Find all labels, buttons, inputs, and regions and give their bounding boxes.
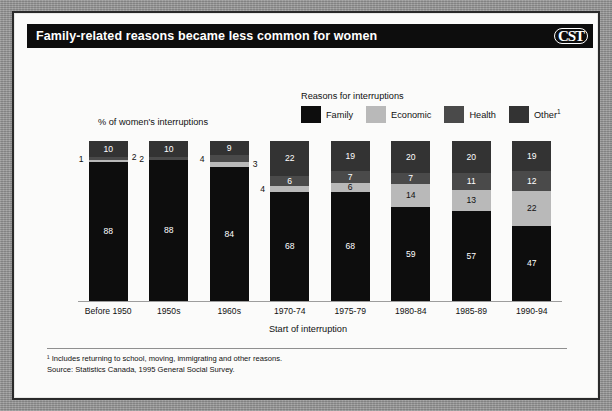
x-axis-label: Start of interruption (14, 324, 602, 334)
segment-callout-label: 2 (139, 155, 144, 164)
stacked-bar[interactable]: 686719 (331, 141, 370, 301)
bar-segment-family: 57 (452, 211, 491, 301)
segment-value-label: 68 (285, 242, 295, 251)
stacked-bar[interactable]: 57131120 (452, 141, 491, 301)
x-tick-label: 1950s (139, 306, 200, 316)
y-axis-label: % of women's interruptions (98, 117, 208, 127)
footnote-text: ¹ Includes returning to school, moving, … (47, 354, 282, 365)
bar-segment-other: 22 (270, 141, 309, 176)
segment-value-label: 10 (103, 145, 113, 154)
legend-label-family: Family (326, 110, 353, 120)
bar-segment-health: 11 (452, 173, 491, 190)
segment-value-label: 9 (227, 144, 232, 153)
bar-segment-other: 10 (149, 141, 188, 157)
bar-segment-family: 88 (149, 160, 188, 301)
stacked-bar[interactable]: 8810 (89, 141, 128, 301)
legend: FamilyEconomicHealthOther1 (301, 106, 574, 123)
bar-segment-other: 19 (331, 141, 370, 171)
source-text: Source: Statistics Canada, 1995 General … (47, 365, 282, 376)
legend-item-economic: Economic (366, 106, 431, 123)
chart-title-bar: Family-related reasons became less commo… (27, 24, 575, 48)
bar-segment-other: 9 (210, 141, 249, 155)
x-tick-label: 1970-74 (260, 306, 321, 316)
segment-callout-label: 2 (132, 153, 137, 162)
segment-value-label: 14 (406, 191, 416, 200)
legend-item-other: Other1 (509, 106, 561, 123)
legend-swatch-family (301, 106, 321, 123)
legend-swatch-economic (366, 106, 386, 123)
bar-segment-other: 20 (391, 141, 430, 173)
x-tick-label: Before 1950 (78, 306, 139, 316)
segment-value-label: 47 (527, 259, 537, 268)
segment-value-label: 7 (348, 173, 353, 182)
segment-value-label: 57 (466, 252, 476, 261)
stacked-bar[interactable]: 47221219 (512, 141, 551, 301)
legend-item-family: Family (301, 106, 353, 123)
bar-segment-family: 84 (210, 167, 249, 301)
segment-callout-label: 4 (200, 155, 205, 164)
bar-segment-other: 20 (452, 141, 491, 173)
bar-slot: 47221219 (512, 141, 551, 301)
bar-slot: 8810 (89, 141, 128, 301)
segment-value-label: 68 (345, 242, 355, 251)
bar-segment-family: 47 (512, 226, 551, 301)
chart-figure: Family-related reasons became less commo… (12, 11, 600, 400)
stacked-bar[interactable]: 5914720 (391, 141, 430, 301)
screenshot-canvas: Family-related reasons became less commo… (0, 0, 612, 411)
segment-value-label: 10 (164, 145, 174, 154)
segment-value-label: 13 (466, 196, 476, 205)
bar-segment-economic: 13 (452, 190, 491, 211)
bar-segment-health: 12 (512, 171, 551, 190)
segment-value-label: 19 (527, 152, 537, 161)
bar-segment-economic (210, 162, 249, 167)
bar-segment-economic (89, 160, 128, 162)
legend-label-other: Other1 (534, 108, 561, 120)
legend-item-health: Health (444, 106, 496, 123)
bar-slot: 849 (210, 141, 249, 301)
segment-value-label: 84 (224, 230, 234, 239)
segment-value-label: 19 (345, 152, 355, 161)
bar-segment-health: 7 (331, 171, 370, 182)
x-tick-label: 1980-84 (381, 306, 442, 316)
segment-callout-label: 1 (79, 155, 84, 164)
bar-segment-economic: 22 (512, 191, 551, 226)
stacked-bar[interactable]: 849 (210, 141, 249, 301)
cst-logo-text: CST (554, 28, 588, 44)
legend-title: Reasons for interruptions (301, 91, 404, 101)
x-axis-line (78, 301, 562, 302)
segment-value-label: 22 (285, 154, 295, 163)
stacked-bar[interactable]: 8810 (149, 141, 188, 301)
bar-segment-family: 68 (270, 192, 309, 301)
bar-segment-health: 7 (391, 173, 430, 184)
stacked-bar[interactable]: 68622 (270, 141, 309, 301)
plot-area: 8810881084968622686719591472057131120472… (78, 141, 562, 301)
legend-swatch-other (509, 106, 529, 123)
segment-value-label: 12 (527, 177, 537, 186)
bar-segment-family: 88 (89, 162, 128, 301)
bar-segment-health (210, 155, 249, 161)
bar-segment-health (89, 157, 128, 160)
legend-label-health: Health (469, 110, 496, 120)
segment-value-label: 6 (287, 177, 292, 186)
x-tick-label: 1985-89 (441, 306, 502, 316)
bar-slot: 57131120 (452, 141, 491, 301)
segment-value-label: 11 (467, 177, 476, 186)
segment-value-label: 20 (406, 153, 416, 162)
segment-value-label: 7 (408, 174, 413, 183)
segment-value-label: 88 (164, 226, 174, 235)
bar-segment-family: 68 (331, 192, 370, 301)
bar-segment-family: 59 (391, 207, 430, 301)
bar-slot: 8810 (149, 141, 188, 301)
bar-slot: 686719 (331, 141, 370, 301)
legend-swatch-health (444, 106, 464, 123)
x-tick-label: 1960s (199, 306, 260, 316)
segment-value-label: 59 (406, 250, 416, 259)
segment-callout-label: 3 (253, 160, 258, 169)
segment-callout-label: 4 (260, 185, 265, 194)
bar-segment-economic (270, 186, 309, 192)
segment-value-label: 22 (527, 204, 537, 213)
bar-segment-health: 6 (270, 176, 309, 186)
x-tick-label: 1990-94 (502, 306, 563, 316)
bar-segment-economic: 6 (331, 183, 370, 193)
segment-value-label: 20 (466, 153, 476, 162)
